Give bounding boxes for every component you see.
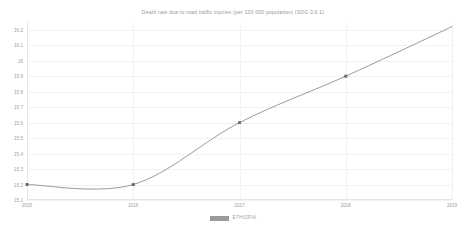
x-tick-label: 2017 (234, 203, 244, 208)
y-tick-label: 15.7 (14, 105, 23, 110)
y-tick-label: 15.2 (14, 182, 23, 187)
data-point-marker[interactable] (238, 121, 241, 124)
x-tick-label: 2016 (128, 203, 138, 208)
y-tick-label: 15.3 (14, 167, 23, 172)
data-point-marker[interactable] (132, 183, 135, 186)
y-tick-label: 15.4 (14, 151, 23, 156)
gridline-y (27, 200, 452, 201)
x-tick-label: 2015 (22, 203, 32, 208)
legend-swatch-ethiopia (210, 216, 229, 221)
data-point-marker[interactable] (344, 75, 347, 78)
gridline-x (452, 22, 453, 200)
y-tick-label: 15.1 (14, 198, 23, 203)
y-tick-label: 16 (18, 58, 23, 63)
legend-label-ethiopia: ETHIOPIA (233, 215, 257, 221)
series-line-ethiopia (27, 22, 452, 200)
chart-title: Death rate due to road traffic injuries … (0, 9, 466, 16)
chart-legend: ETHIOPIA (0, 215, 466, 221)
y-tick-label: 16.1 (14, 43, 23, 48)
chart-container: Death rate due to road traffic injuries … (0, 0, 466, 241)
series-path (27, 27, 452, 189)
x-tick-label: 2019 (447, 203, 457, 208)
y-tick-label: 16.2 (14, 27, 23, 32)
data-point-marker[interactable] (26, 183, 29, 186)
y-tick-label: 15.6 (14, 120, 23, 125)
x-tick-label: 2018 (341, 203, 351, 208)
y-tick-label: 15.9 (14, 74, 23, 79)
y-tick-label: 15.5 (14, 136, 23, 141)
y-tick-label: 15.8 (14, 89, 23, 94)
plot-area: 16.216.11615.915.815.715.615.515.415.315… (27, 22, 452, 200)
